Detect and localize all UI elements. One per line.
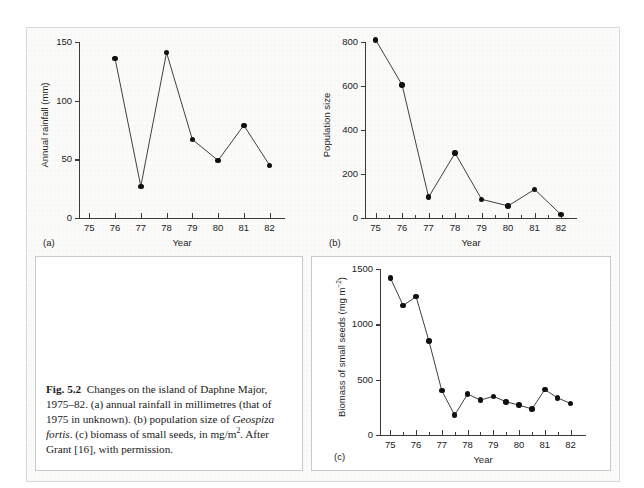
x-axis-title: Year [142,237,222,248]
x-tick-label: 82 [256,223,284,233]
y-axis-title: Population size [321,32,332,218]
x-axis-line [380,435,586,436]
data-point-marker [505,203,510,208]
data-point-marker [190,137,195,142]
x-axis-title: Year [443,454,523,465]
data-point-marker [138,184,143,189]
data-point-marker [399,82,404,87]
data-point-marker [491,394,496,399]
x-tick-label: 76 [101,223,129,233]
panel-c: 0500100015007576777879808182YearBiomass … [311,256,611,471]
x-tick-label: 81 [531,440,559,450]
x-tick-label: 80 [204,223,232,233]
data-point-marker [516,402,521,407]
y-tick-label: 150 [31,37,72,47]
x-tick-label: 77 [415,223,443,233]
data-point-marker [426,338,431,343]
x-axis-title: Year [431,237,511,248]
x-tick-label: 79 [468,223,496,233]
scanned-page: 0501001507576777879808182YearAnnual rain… [26,27,620,482]
x-tick-label: 75 [362,223,390,233]
x-tick-label: 81 [521,223,549,233]
x-tick-label: 80 [494,223,522,233]
y-tick-label: 0 [31,213,72,223]
y-tick [361,218,366,219]
panel-c-letter: (c) [334,451,345,462]
x-tick-label: 76 [402,440,430,450]
data-point-marker [215,158,220,163]
data-point-marker [555,395,560,400]
y-tick [376,435,381,436]
x-tick-label: 78 [441,223,469,233]
panel-a: 0501001507576777879808182YearAnnual rain… [31,32,295,256]
x-tick-label: 82 [547,223,575,233]
data-point-marker [503,399,508,404]
y-axis-title-text: Biomass of small seeds (mg m [336,288,347,417]
x-tick-label: 75 [376,440,404,450]
panel-b-plot-area: 02004006008007576777879808182YearPopulat… [365,42,577,218]
series-line [365,42,577,218]
y-tick [75,218,80,219]
data-point-marker [267,163,272,168]
x-axis-line [365,218,577,219]
x-tick-label: 82 [557,440,585,450]
x-tick-label: 77 [428,440,456,450]
panel-b-letter: (b) [329,237,341,248]
data-point-marker [400,303,405,308]
data-point-marker [542,387,547,392]
y-axis-title: Annual rainfall (mm) [39,32,50,218]
series-line [380,269,586,435]
data-point-marker [465,391,470,396]
panel-a-letter: (a) [43,237,55,248]
x-tick-label: 77 [127,223,155,233]
data-point-marker [241,123,246,128]
x-tick-label: 80 [505,440,533,450]
y-axis-title-superscript: −2 [335,280,342,287]
y-axis-title-tail: ) [336,277,347,280]
x-tick-label: 76 [388,223,416,233]
x-axis-line [79,218,285,219]
y-axis-title: Biomass of small seeds (mg m−2) [336,259,347,435]
y-tick-label: 100 [31,96,72,106]
x-tick-label: 81 [230,223,258,233]
data-point-marker [478,397,483,402]
data-point-marker [388,275,393,280]
data-point-marker [426,194,431,199]
data-point-marker [439,388,444,393]
x-tick-label: 79 [479,440,507,450]
x-tick-label: 75 [75,223,103,233]
figure-caption: Fig. 5.2 Changes on the island of Daphne… [46,382,290,457]
data-point-marker [452,150,457,155]
x-tick-label: 78 [153,223,181,233]
caption-frame: Fig. 5.2 Changes on the island of Daphne… [35,256,303,471]
figure-label: Fig. 5.2 [46,383,81,395]
caption-part-2: . (c) biomass of small seeds, in mg/m [70,428,237,440]
panel-b: 02004006008007576777879808182YearPopulat… [305,32,597,256]
x-tick-label: 78 [454,440,482,450]
series-line [79,42,285,218]
x-tick-label: 79 [178,223,206,233]
y-tick-label: 50 [31,154,72,164]
panel-c-plot-area: 0500100015007576777879808182YearBiomass … [380,269,586,435]
data-point-marker [529,406,534,411]
data-point-marker [112,56,117,61]
data-point-marker [373,37,378,42]
panel-a-plot-area: 0501001507576777879808182YearAnnual rain… [79,42,285,218]
